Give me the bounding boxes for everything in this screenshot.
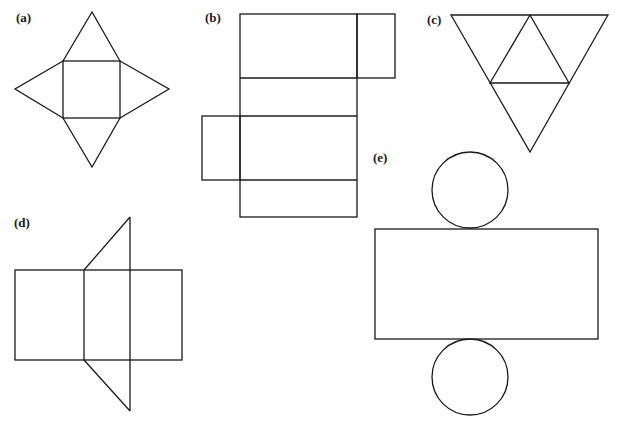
- figure-d: (d): [14, 215, 182, 411]
- prism-rectangles: [15, 270, 182, 360]
- left-flap: [202, 116, 240, 180]
- figure-b-label: (b): [205, 10, 221, 25]
- figure-a: (a): [15, 10, 169, 167]
- pyramid-base-square: [63, 61, 120, 118]
- figure-c: (c): [427, 12, 608, 152]
- right-triangle: [120, 61, 169, 118]
- bottom-circle: [432, 339, 508, 415]
- figure-d-label: (d): [14, 215, 30, 230]
- figure-c-label: (c): [427, 12, 441, 27]
- figure-e: (e): [373, 150, 598, 415]
- bottom-triangle: [63, 118, 120, 167]
- figure-a-label: (a): [16, 10, 31, 25]
- bottom-triangle-edge: [84, 360, 130, 411]
- figure-e-label: (e): [373, 150, 387, 165]
- left-triangle: [15, 61, 63, 118]
- top-circle: [432, 152, 508, 228]
- cylinder-side-rectangle: [375, 229, 598, 339]
- right-flap: [357, 14, 395, 78]
- nets-diagram: (a) (b) (c) (d) (e): [0, 0, 617, 429]
- top-triangle: [63, 12, 120, 61]
- inner-triangle: [490, 15, 569, 83]
- figure-b: (b): [202, 10, 395, 217]
- top-triangle-edge: [84, 217, 130, 270]
